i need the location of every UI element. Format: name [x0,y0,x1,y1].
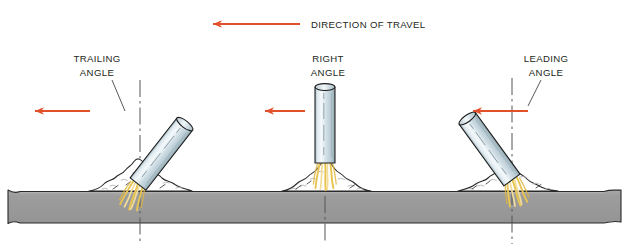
base-metal-plate [8,190,621,224]
label-right-angle-line1: RIGHT [312,53,344,64]
label-trailing-angle-line2: ANGLE [80,67,114,78]
label-trailing-angle-line1: TRAILING [73,53,120,64]
label-leading-angle-line1: LEADING [524,53,569,64]
electrode-right [315,84,335,163]
diagram-canvas: DIRECTION OF TRAVEL [0,0,629,250]
label-right-angle-line2: ANGLE [311,67,345,78]
electrode-leading [457,110,520,186]
leader-line-trailing [112,80,125,111]
label-leading-angle-line2: ANGLE [529,67,563,78]
welding-angle-diagram: DIRECTION OF TRAVEL [0,0,629,250]
direction-of-travel-label: DIRECTION OF TRAVEL [311,19,426,30]
direction-of-travel-group: DIRECTION OF TRAVEL [213,19,426,30]
leader-line-leading [528,80,541,106]
